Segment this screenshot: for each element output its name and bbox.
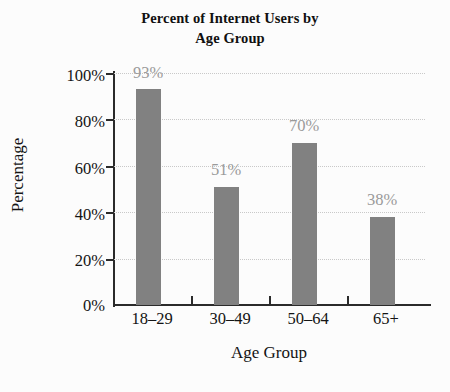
x-category-label-50-64: 50–64: [269, 310, 347, 328]
y-tick-80: [106, 119, 114, 121]
y-tick-label-60: 60%: [75, 161, 105, 177]
bar-value-label-50-64: 70%: [289, 117, 319, 134]
bar-30-49[interactable]: [214, 187, 239, 305]
bar-value-label-65plus: 38%: [367, 191, 397, 208]
bar-chart: Percent of Internet Users by Age Group 1…: [0, 0, 450, 392]
chart-title-line-2: Age Group: [60, 28, 400, 48]
bar-50-64[interactable]: [292, 143, 317, 305]
chart-title: Percent of Internet Users by Age Group: [60, 8, 400, 48]
y-axis-title: Percentage: [8, 95, 28, 255]
y-tick-label-0: 0%: [83, 298, 105, 314]
x-tick-3: [347, 296, 349, 305]
y-tick-60: [106, 166, 114, 168]
bar-65plus[interactable]: [370, 217, 395, 305]
x-tick-2: [269, 296, 271, 305]
x-category-label-30-49: 30–49: [191, 310, 269, 328]
x-category-label-18-29: 18–29: [113, 310, 191, 328]
y-tick-label-20: 20%: [75, 253, 105, 269]
x-axis-title: Age Group: [113, 343, 425, 363]
x-category-label-65plus: 65+: [347, 310, 425, 328]
y-tick-label-100: 100%: [67, 68, 106, 84]
y-tick-label-40: 40%: [75, 207, 105, 223]
y-tick-40: [106, 212, 114, 214]
bar-18-29[interactable]: [136, 89, 161, 305]
chart-title-line-1: Percent of Internet Users by: [60, 8, 400, 28]
y-tick-100: [106, 73, 114, 75]
plot-area: [113, 73, 425, 305]
bar-value-label-18-29: 93%: [133, 64, 163, 81]
x-tick-1: [191, 296, 193, 305]
y-tick-label-80: 80%: [75, 114, 105, 130]
y-tick-20: [106, 259, 114, 261]
bar-value-label-30-49: 51%: [211, 161, 241, 178]
